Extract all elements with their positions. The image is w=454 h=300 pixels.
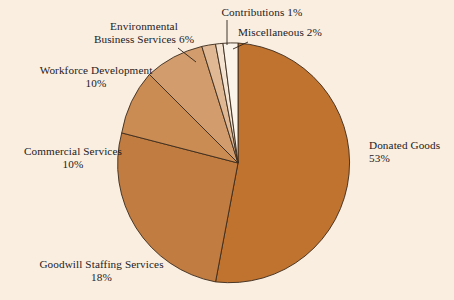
pie-chart-figure: Contributions 1% Miscellaneous 2% Enviro…: [0, 0, 454, 300]
pie-label-commercial-services: Commercial Services 10%: [8, 145, 138, 171]
pie-label-workforce-development: Workforce Development 10%: [26, 64, 166, 90]
pie-label-goodwill-name: Goodwill Staffing Services: [14, 258, 189, 271]
pie-label-contributions-text: Contributions 1%: [202, 6, 322, 19]
pie-label-environmental-business-services: Environmental Business Services 6%: [74, 20, 214, 46]
pie-label-contributions: Contributions 1%: [202, 6, 322, 19]
pie-label-goodwill-percent: 18%: [14, 271, 189, 284]
pie-label-goodwill-staffing-services: Goodwill Staffing Services 18%: [14, 258, 189, 284]
pie-label-donated-name: Donated Goods: [369, 139, 454, 152]
pie-label-miscellaneous: Miscellaneous 2%: [238, 26, 368, 39]
pie-label-workforce-percent: 10%: [26, 77, 166, 90]
pie-label-miscellaneous-text: Miscellaneous 2%: [238, 26, 368, 39]
pie-label-environmental-line1: Environmental: [74, 20, 214, 33]
pie-label-donated-goods: Donated Goods 53%: [369, 139, 454, 165]
pie-label-commercial-name: Commercial Services: [8, 145, 138, 158]
pie-label-commercial-percent: 10%: [8, 158, 138, 171]
pie-label-environmental-line2: Business Services 6%: [74, 33, 214, 46]
pie-label-workforce-name: Workforce Development: [26, 64, 166, 77]
pie-label-donated-percent: 53%: [369, 152, 454, 165]
